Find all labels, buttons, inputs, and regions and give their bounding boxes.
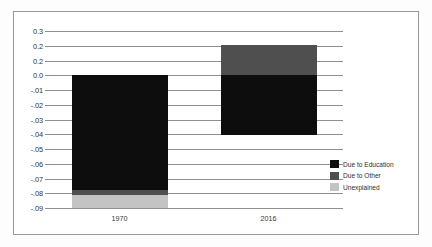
y-axis-tick-label: -.07 — [31, 174, 43, 183]
y-axis-tick-label: -.06 — [31, 159, 43, 168]
legend-item-label: Due to Education — [343, 161, 394, 168]
y-axis-tick-label: 0.2 — [33, 56, 43, 65]
legend-item-label: Due to Other — [343, 172, 381, 179]
bar-segment — [221, 75, 317, 135]
y-axis: 0.30.20.20.0-.01-.02-.03-.04-.05-.06-.07… — [13, 31, 43, 208]
legend-swatch-icon — [330, 160, 339, 168]
y-axis-tick-label: 0.0 — [33, 71, 43, 80]
x-axis-category-label: 2016 — [261, 214, 277, 223]
bar-segment — [72, 195, 168, 208]
legend-item: Due to Other — [330, 172, 414, 180]
bar-group — [72, 31, 168, 208]
y-axis-tick-label: 0.3 — [33, 27, 43, 36]
y-axis-tick-label: -.02 — [31, 100, 43, 109]
legend-item: Unexplained — [330, 183, 414, 191]
y-axis-tick-label: -.01 — [31, 86, 43, 95]
y-axis-tick-label: -.05 — [31, 145, 43, 154]
bar-segment — [221, 45, 317, 75]
y-axis-tick-label: -.09 — [31, 204, 43, 213]
legend-swatch-icon — [330, 183, 339, 191]
y-axis-tick-label: -.08 — [31, 189, 43, 198]
chart-legend: Due to EducationDue to OtherUnexplained — [330, 160, 414, 195]
gridline — [45, 208, 343, 209]
y-axis-tick-label: -.03 — [31, 115, 43, 124]
plot-area — [45, 31, 343, 208]
x-axis-category-label: 1970 — [112, 214, 128, 223]
y-axis-tick-label: -.04 — [31, 130, 43, 139]
legend-item: Due to Education — [330, 160, 414, 168]
bar-group — [221, 31, 317, 208]
y-axis-tick-label: 0.2 — [33, 41, 43, 50]
bar-segment — [72, 75, 168, 189]
legend-item-label: Unexplained — [343, 184, 380, 191]
chart-figure: 0.30.20.20.0-.01-.02-.03-.04-.05-.06-.07… — [0, 0, 432, 247]
legend-swatch-icon — [330, 172, 339, 180]
